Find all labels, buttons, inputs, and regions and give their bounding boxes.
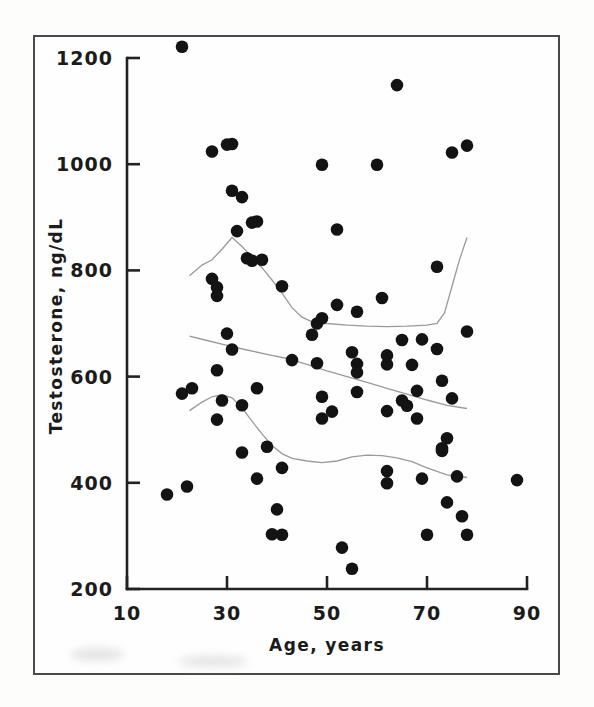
data-point	[181, 480, 194, 493]
data-point	[391, 79, 404, 92]
data-point	[456, 510, 469, 523]
x-axis-tick-labels: 1030507090	[113, 602, 541, 624]
data-point	[346, 346, 359, 359]
data-point	[326, 405, 339, 418]
upper-percentile-curve	[190, 238, 468, 327]
data-point	[511, 474, 524, 487]
data-point	[236, 446, 249, 459]
x-tick-label: 50	[313, 602, 341, 624]
data-point	[221, 327, 234, 340]
scatter-points	[161, 41, 524, 576]
data-point	[286, 354, 299, 367]
data-point	[336, 541, 349, 554]
data-point	[381, 465, 394, 478]
data-point	[226, 343, 239, 356]
data-point	[331, 223, 344, 236]
data-point	[401, 400, 414, 413]
scatter-plot: 20040060080010001200 1030507090 Age, yea…	[0, 0, 594, 707]
data-point	[316, 391, 329, 404]
data-point	[261, 440, 274, 453]
data-point	[406, 359, 419, 372]
data-point	[251, 215, 264, 228]
data-point	[251, 472, 264, 485]
x-tick-label: 10	[113, 602, 141, 624]
x-axis-title: Age, years	[269, 635, 385, 655]
x-tick-label: 90	[513, 602, 541, 624]
data-point	[226, 138, 239, 151]
data-point	[431, 260, 444, 273]
y-tick-label: 1000	[56, 153, 113, 175]
data-point	[461, 139, 474, 152]
data-point	[421, 529, 434, 542]
data-point	[371, 158, 384, 171]
y-tick-label: 1200	[56, 47, 113, 69]
data-point	[461, 529, 474, 542]
data-point	[316, 158, 329, 171]
data-point	[446, 392, 459, 405]
data-point	[186, 382, 199, 395]
data-point	[211, 364, 224, 377]
data-point	[276, 280, 289, 293]
data-point	[381, 405, 394, 418]
y-tick-label: 600	[70, 366, 113, 388]
figure-container: 20040060080010001200 1030507090 Age, yea…	[0, 0, 594, 707]
y-axis-ticks	[127, 58, 140, 589]
data-point	[331, 299, 344, 312]
data-point	[381, 349, 394, 362]
trend-curves	[190, 238, 468, 478]
data-point	[411, 412, 424, 425]
y-tick-label: 400	[70, 472, 113, 494]
data-point	[411, 385, 424, 398]
data-point	[441, 496, 454, 509]
y-axis-title: Testosterone, ng/dL	[46, 218, 66, 435]
data-point	[416, 333, 429, 346]
data-point	[461, 325, 474, 338]
data-point	[206, 145, 219, 158]
data-point	[276, 462, 289, 475]
data-point	[351, 306, 364, 319]
data-point	[306, 328, 319, 341]
data-point	[396, 334, 409, 347]
x-tick-label: 70	[413, 602, 441, 624]
data-point	[276, 529, 289, 542]
data-point	[346, 563, 359, 576]
data-point	[256, 253, 269, 266]
data-point	[231, 225, 244, 238]
data-point	[236, 399, 249, 412]
x-axis-ticks	[127, 576, 527, 589]
data-point	[381, 477, 394, 490]
y-tick-label: 200	[70, 578, 113, 600]
data-point	[316, 312, 329, 325]
data-point	[451, 470, 464, 483]
data-point	[311, 357, 324, 370]
data-point	[161, 488, 174, 501]
data-point	[416, 472, 429, 485]
data-point	[211, 290, 224, 303]
data-point	[176, 41, 189, 54]
data-point	[436, 445, 449, 458]
data-point	[431, 343, 444, 356]
data-point	[211, 413, 224, 426]
data-point	[216, 394, 229, 407]
data-point	[446, 146, 459, 159]
data-point	[351, 366, 364, 379]
data-point	[436, 375, 449, 388]
data-point	[376, 292, 389, 305]
data-point	[251, 382, 264, 395]
data-point	[441, 432, 454, 445]
data-point	[236, 191, 249, 204]
data-point	[271, 503, 284, 516]
x-tick-label: 30	[213, 602, 241, 624]
data-point	[351, 386, 364, 399]
y-tick-label: 800	[70, 259, 113, 281]
